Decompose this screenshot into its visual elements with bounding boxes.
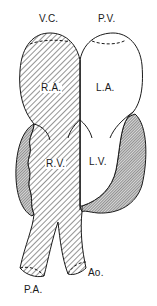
heart-diagram: [0, 0, 157, 306]
label-right-atrium: R.A.: [40, 83, 62, 93]
label-left-ventricle: L.V.: [89, 157, 107, 167]
label-pulmonary-veins: P.V.: [98, 14, 116, 24]
label-left-atrium: L.A.: [96, 83, 115, 93]
label-right-ventricle: R.V.: [45, 159, 66, 169]
right-heart-body: [20, 33, 86, 277]
label-aorta: Ao.: [88, 268, 104, 278]
label-pulmonary-artery: P.A.: [24, 285, 42, 295]
label-vena-cava: V.C.: [39, 14, 58, 24]
